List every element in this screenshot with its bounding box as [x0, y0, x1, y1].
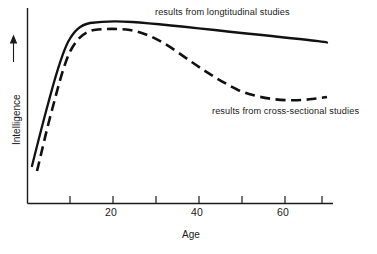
- x-axis-title: Age: [182, 229, 200, 240]
- annotation-cross-sectional: results from cross-sectional studies: [212, 106, 359, 116]
- x-axis-ticks: [70, 196, 322, 204]
- chart-plot-area: [0, 0, 377, 254]
- series-line-cross-sectional: [37, 29, 327, 171]
- x-tick-label-60: 60: [277, 206, 289, 218]
- series-line-longitudinal: [32, 21, 327, 166]
- chart-figure: 20 40 60 Age Intelligence results from l…: [0, 0, 377, 254]
- y-axis-title: Intelligence: [11, 94, 22, 145]
- y-axis-arrow-icon: [11, 36, 17, 62]
- x-tick-label-20: 20: [105, 206, 117, 218]
- annotation-longitudinal: results from longtitudinal studies: [155, 7, 290, 17]
- x-tick-label-40: 40: [191, 206, 203, 218]
